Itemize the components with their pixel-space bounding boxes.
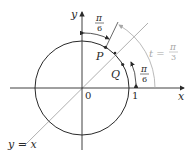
top-angle-arc bbox=[84, 33, 109, 39]
point-q-label: Q bbox=[111, 68, 120, 81]
top-fraction-den: 6 bbox=[97, 24, 102, 33]
t-fraction-num: π bbox=[169, 42, 177, 52]
x-axis-label: x bbox=[178, 90, 185, 103]
point-p bbox=[104, 46, 107, 49]
ray-60-degrees bbox=[106, 22, 118, 47]
origin-label: 0 bbox=[85, 90, 91, 101]
right-angle-arc bbox=[131, 62, 136, 84]
right-fraction-den: 6 bbox=[142, 75, 147, 84]
unit-circle-diagram: y x 0 1 P Q y = x π 6 π 6 t = π 3 bbox=[0, 0, 193, 164]
point-p-label: P bbox=[95, 50, 104, 63]
line-label: y = x bbox=[7, 138, 37, 151]
point-q bbox=[121, 63, 124, 66]
right-fraction-num: π bbox=[140, 64, 148, 74]
t-fraction-den: 3 bbox=[171, 53, 176, 62]
one-label: 1 bbox=[132, 90, 138, 101]
t-label-lhs: t = bbox=[149, 48, 165, 59]
y-axis-label: y bbox=[70, 8, 78, 21]
top-fraction-num: π bbox=[95, 13, 103, 23]
point-on-line bbox=[114, 52, 117, 55]
